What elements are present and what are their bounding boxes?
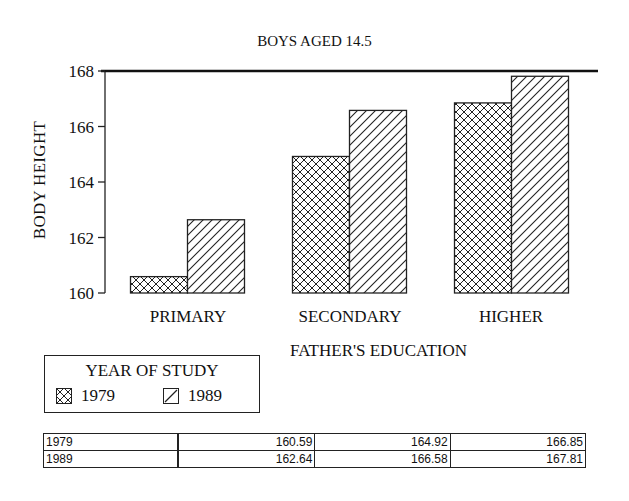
category-label-secondary: SECONDARY <box>280 307 420 327</box>
table-cell: 160.59 <box>178 434 315 451</box>
legend-item-1989: 1989 <box>163 386 222 406</box>
bar-primary-1989 <box>188 220 245 293</box>
table-cell-year: 1989 <box>44 451 179 468</box>
x-axis-label: FATHER'S EDUCATION <box>290 341 467 361</box>
bar-secondary-1989 <box>350 110 407 293</box>
table-row: 1989 162.64 166.58 167.81 <box>44 451 586 468</box>
table-cell: 162.64 <box>178 451 315 468</box>
data-table: 1979 160.59 164.92 166.85 1989 162.64 16… <box>43 433 586 468</box>
legend: YEAR OF STUDY 1979 1989 <box>44 355 260 413</box>
y-tick-label: 166 <box>69 118 95 137</box>
bars <box>131 76 569 293</box>
table-cell: 166.58 <box>315 451 450 468</box>
table-cell-year: 1979 <box>44 434 179 451</box>
table-cell: 166.85 <box>450 434 585 451</box>
bar-primary-1979 <box>131 277 188 293</box>
bar-secondary-1979 <box>293 156 350 293</box>
y-tick-label: 162 <box>69 229 95 248</box>
table-cell: 164.92 <box>315 434 450 451</box>
bar-higher-1989 <box>512 76 569 293</box>
diagonal-swatch-icon <box>163 388 179 404</box>
table-cell: 167.81 <box>450 451 585 468</box>
legend-item-1979: 1979 <box>56 386 115 406</box>
chart-title: BOYS AGED 14.5 <box>0 33 629 50</box>
bar-chart: 160162164166168 <box>0 0 629 501</box>
crosshatch-swatch-icon <box>56 388 72 404</box>
y-axis-label: BODY HEIGHT <box>30 115 50 245</box>
y-tick-label: 164 <box>69 173 95 192</box>
y-tick-label: 160 <box>69 284 95 303</box>
category-label-primary: PRIMARY <box>118 307 258 327</box>
legend-title: YEAR OF STUDY <box>45 361 259 381</box>
y-tick-label: 168 <box>69 62 95 81</box>
category-label-higher: HIGHER <box>441 307 581 327</box>
table-row: 1979 160.59 164.92 166.85 <box>44 434 586 451</box>
bar-higher-1979 <box>455 103 512 293</box>
legend-label: 1979 <box>81 386 115 406</box>
legend-label: 1989 <box>188 386 222 406</box>
